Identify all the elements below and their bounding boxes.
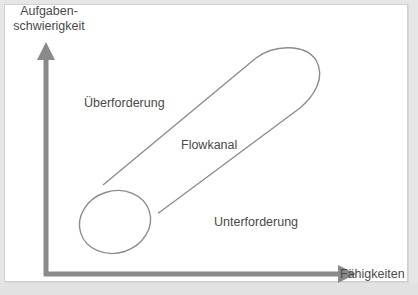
y-axis-label: Aufgaben- schwierigkeit [4, 4, 94, 34]
y-axis-label-line1: Aufgaben- [4, 4, 94, 19]
bottom-caption-strip [0, 283, 418, 295]
y-axis-arrow [37, 42, 55, 276]
region-label-underload: Unterforderung [214, 215, 298, 230]
y-axis-label-line2: schwierigkeit [4, 19, 94, 34]
flow-channel-shape [71, 48, 320, 263]
x-axis-label: Fähigkeiten [340, 267, 405, 282]
x-axis-arrow [44, 265, 356, 283]
region-label-flow-channel: Flowkanal [181, 138, 237, 153]
region-label-overload: Überforderung [84, 96, 165, 111]
